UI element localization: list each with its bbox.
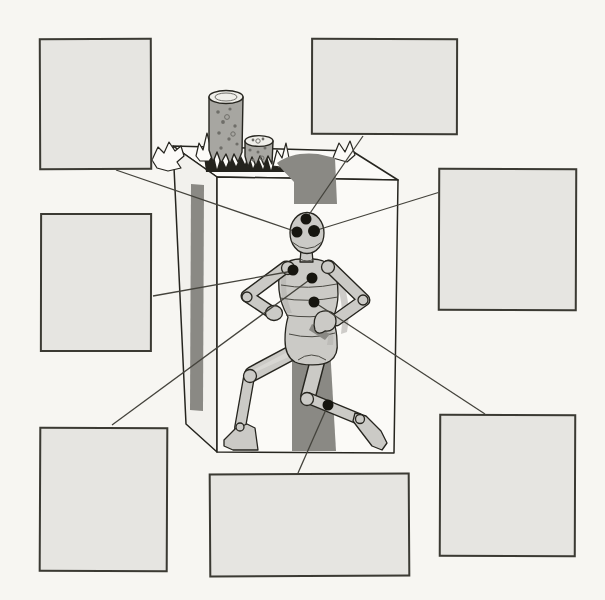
center-chest-marker-dot bbox=[307, 273, 318, 284]
callout-label bbox=[41, 40, 150, 168]
left-eye-marker-dot bbox=[292, 227, 303, 238]
right-eye-marker-dot bbox=[308, 225, 320, 237]
callout-box-right-middle[interactable] bbox=[438, 168, 577, 311]
callout-label bbox=[41, 429, 167, 571]
callout-label bbox=[211, 474, 409, 575]
callout-label bbox=[441, 416, 574, 555]
diagram-canvas bbox=[0, 0, 605, 600]
callout-box-top-left[interactable] bbox=[39, 38, 152, 170]
right-elbow-joint bbox=[358, 295, 368, 305]
callout-box-bottom-left[interactable] bbox=[39, 427, 169, 573]
right-shin-marker-dot bbox=[323, 400, 334, 411]
callout-box-top-right[interactable] bbox=[311, 38, 458, 135]
log-large-top bbox=[209, 91, 243, 104]
left-chest-marker-dot bbox=[288, 265, 299, 276]
carton-left-stripe bbox=[190, 184, 204, 411]
right-shoulder-joint bbox=[322, 261, 335, 274]
log-small-top bbox=[245, 136, 273, 147]
callout-label bbox=[313, 40, 456, 133]
callout-label bbox=[440, 170, 575, 309]
left-hand bbox=[266, 306, 283, 321]
callout-box-bottom-right[interactable] bbox=[439, 414, 576, 557]
head-top-marker-dot bbox=[301, 214, 312, 225]
left-elbow-joint bbox=[242, 292, 252, 302]
left-knee-joint bbox=[244, 370, 257, 383]
left-ankle-joint bbox=[236, 423, 244, 431]
right-knee-joint bbox=[301, 393, 314, 406]
right-ankle-joint bbox=[356, 415, 365, 424]
callout-box-bottom-center[interactable] bbox=[209, 472, 411, 577]
abdomen-marker-dot bbox=[309, 297, 320, 308]
callout-box-left-middle[interactable] bbox=[40, 213, 152, 352]
log-large bbox=[209, 91, 243, 165]
callout-label bbox=[42, 215, 150, 350]
log-large-body bbox=[209, 97, 243, 164]
